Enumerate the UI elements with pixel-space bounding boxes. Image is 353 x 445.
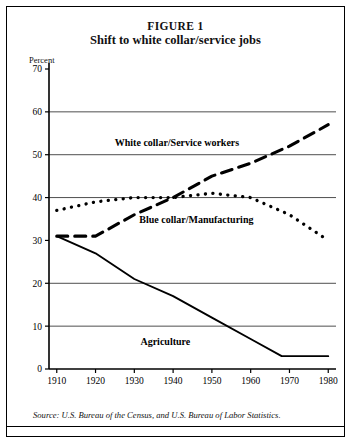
data-series-line	[57, 236, 328, 356]
series-label: Blue collar/Manufacturing	[139, 214, 253, 225]
x-axis: 19101920193019401950196019701980	[47, 369, 338, 386]
y-axis-tick-label: 30	[33, 236, 43, 246]
y-axis-tick-label: 10	[33, 322, 43, 332]
y-axis-tick-label: 0	[37, 364, 42, 374]
y-axis-tick-label: 50	[33, 150, 43, 160]
x-axis-tick-label: 1950	[202, 376, 221, 386]
x-axis-tick-label: 1960	[241, 376, 260, 386]
series-label: White collar/Service workers	[115, 137, 240, 148]
y-axis-tick-label: 20	[33, 279, 43, 289]
y-axis-tick-label: 60	[33, 107, 43, 117]
source-divider	[7, 426, 344, 427]
x-axis-tick-label: 1970	[280, 376, 299, 386]
data-series-group	[57, 125, 328, 356]
chart-plot-area: 010203040506070 191019201930194019501960…	[7, 7, 346, 438]
y-axis: 010203040506070	[33, 63, 50, 374]
figure-frame: FIGURE 1 Shift to white collar/service j…	[6, 6, 345, 437]
x-axis-tick-label: 1930	[125, 376, 144, 386]
y-axis-tick-label: 70	[33, 64, 43, 74]
x-axis-tick-label: 1920	[86, 376, 105, 386]
series-label: Agriculture	[140, 336, 190, 347]
x-axis-tick-label: 1980	[319, 376, 338, 386]
x-axis-tick-label: 1910	[47, 376, 66, 386]
x-axis-tick-label: 1940	[164, 376, 183, 386]
source-note: Source: U.S. Bureau of the Census, and U…	[33, 410, 281, 420]
y-axis-tick-label: 40	[33, 193, 43, 203]
